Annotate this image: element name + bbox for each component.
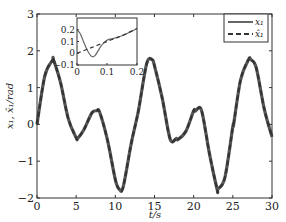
y-tick-label: −2 — [18, 192, 34, 205]
x-tick-label: 5 — [73, 200, 80, 213]
inset-y-tick-label: 0.2 — [61, 25, 75, 35]
inset-y-tick-label: −0.1 — [53, 60, 75, 70]
legend-label-x1: x₁ — [255, 17, 264, 27]
inset-y-tick-label: 0.1 — [61, 37, 75, 47]
legend: x₁ x̂₁ — [224, 14, 268, 42]
y-tick-label: −1 — [18, 155, 34, 168]
legend-label-x1-hat: x̂₁ — [255, 29, 264, 39]
y-axis-label: x₁, x̂₁/rad — [4, 83, 15, 129]
inset-y-tick-label: 0 — [69, 48, 75, 58]
inset-x-tick-label: 0.2 — [130, 67, 144, 77]
y-tick-label: 2 — [27, 45, 34, 58]
x-tick-label: 0 — [34, 200, 41, 213]
x-tick-label: 10 — [108, 200, 122, 213]
x-axis-label: t/s — [149, 209, 162, 220]
x-tick-label: 30 — [265, 200, 279, 213]
y-tick-label: 0 — [27, 118, 34, 131]
x-tick-label: 20 — [187, 200, 201, 213]
x-tick-label: 25 — [226, 200, 240, 213]
y-tick-label: 1 — [27, 82, 34, 95]
inset-frame — [77, 18, 137, 65]
y-tick-label: 3 — [27, 8, 34, 21]
line-chart: 051015202530 −2−10123 t/s x₁, x̂₁/rad x₁… — [0, 0, 286, 222]
inset-x-tick-label: 0 — [74, 67, 80, 77]
inset-x-tick-label: 0.1 — [100, 67, 114, 77]
